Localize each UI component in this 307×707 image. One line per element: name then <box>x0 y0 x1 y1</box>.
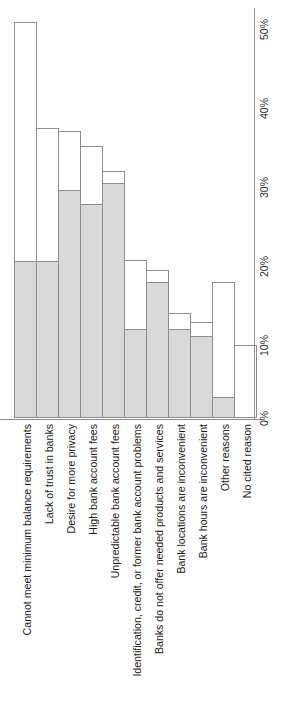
x-axis-baseline <box>0 419 262 420</box>
category-labels: Cannot meet minimum balance requirements… <box>0 424 307 707</box>
category-label-2: Desire for more privacy <box>64 424 78 704</box>
ytick-label-4: 40% <box>258 73 272 119</box>
bar-2[interactable] <box>58 131 81 418</box>
bar-6[interactable] <box>146 270 169 418</box>
ytick-label-3: 30% <box>258 152 272 198</box>
category-label-4: Unpredictable bank account fees <box>108 424 122 704</box>
bar-8-fill <box>191 336 212 417</box>
category-label-3: High bank account fees <box>86 424 100 704</box>
bar-5-fill <box>125 329 146 417</box>
category-label-5: Identification, credit, or former bank a… <box>130 424 144 704</box>
bar-3[interactable] <box>80 146 103 418</box>
ytick-label-2: 20% <box>258 231 272 277</box>
y-axis-spine <box>254 8 255 420</box>
bar-5[interactable] <box>124 260 147 418</box>
bar-6-fill <box>147 282 168 417</box>
bar-0[interactable] <box>14 22 37 418</box>
category-label-9: Other reasons <box>218 424 232 704</box>
bar-0-fill <box>15 261 36 417</box>
ytick-label-1: 10% <box>258 310 272 356</box>
bar-8[interactable] <box>190 322 213 418</box>
bar-4-fill <box>103 183 124 417</box>
category-label-6: Banks do not offer needed products and s… <box>152 424 166 704</box>
bar-1-fill <box>37 261 58 417</box>
bar-3-fill <box>81 204 102 417</box>
ytick-label-0: 0% <box>258 380 272 426</box>
category-label-7: Bank locations are inconvenient <box>174 424 188 704</box>
bar-4[interactable] <box>102 171 125 418</box>
plot-area <box>0 0 260 420</box>
bar-7-fill <box>169 329 190 417</box>
bars-layer <box>0 0 260 420</box>
bar-chart: 0% 10% 20% 30% 40% 50% Cannot meet minim… <box>0 0 307 707</box>
bar-9-fill <box>213 397 234 417</box>
bar-9[interactable] <box>212 282 235 418</box>
bar-7[interactable] <box>168 313 191 418</box>
category-label-0: Cannot meet minimum balance requirements <box>20 424 34 704</box>
ytick-label-5: 50% <box>258 0 272 40</box>
category-label-10: No cited reason <box>240 424 254 704</box>
category-label-8: Bank hours are inconvenient <box>196 424 210 704</box>
category-label-1: Lack of trust in banks <box>42 424 56 704</box>
bar-2-fill <box>59 190 80 417</box>
bar-1[interactable] <box>36 128 59 418</box>
